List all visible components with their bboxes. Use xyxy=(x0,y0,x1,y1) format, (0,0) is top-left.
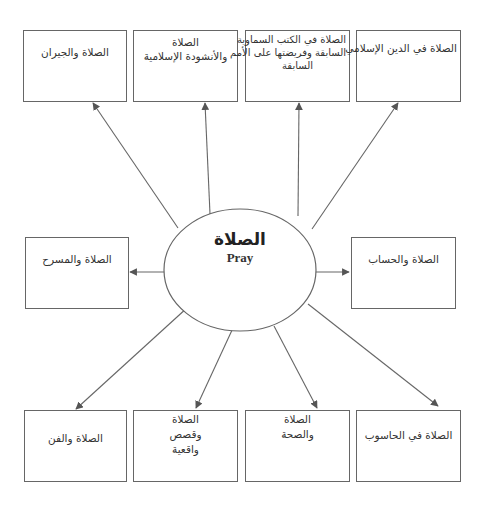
center-node: الصلاة Pray xyxy=(164,209,316,331)
box-label: وقصص xyxy=(137,427,234,442)
box-prayer-and-neighbors: الصلاة والجيران xyxy=(23,30,127,102)
arrow-to-top-4 xyxy=(312,103,398,229)
box-label: والصحة xyxy=(249,427,346,442)
box-prayer-and-arithmetic: الصلاة والحساب xyxy=(351,237,456,309)
box-label: الصلاة في الحاسوب xyxy=(360,428,457,442)
center-title-arabic: الصلاة xyxy=(164,229,316,249)
box-label: السابقة وفريضتها على الأمم xyxy=(249,46,346,59)
box-label: السابقة xyxy=(249,59,346,72)
box-label: الصلاة في الدين الإسلامي xyxy=(360,41,457,55)
box-prayer-in-previous-scriptures: الصلاة في الكتب السماوية السابقة وفريضته… xyxy=(245,30,350,102)
box-prayer-and-islamic-anthem: الصلاة والأنشودة الإسلامية xyxy=(133,30,238,102)
box-prayer-in-islam: الصلاة في الدين الإسلامي xyxy=(356,30,461,102)
box-prayer-in-computer: الصلاة في الحاسوب xyxy=(356,410,461,482)
box-label: واقعية xyxy=(137,442,234,457)
box-label: الصلاة xyxy=(137,412,234,427)
box-prayer-and-health: الصلاة والصحة xyxy=(245,410,350,482)
box-label: الصلاة xyxy=(249,412,346,427)
box-label: والأنشودة الإسلامية xyxy=(137,49,234,63)
box-prayer-and-real-stories: الصلاة وقصص واقعية xyxy=(133,410,238,482)
box-prayer-and-theater: الصلاة والمسرح xyxy=(25,237,129,309)
box-prayer-and-art: الصلاة والفن xyxy=(24,410,127,482)
box-label: الصلاة والجيران xyxy=(27,45,123,59)
box-label: الصلاة والحساب xyxy=(355,252,452,266)
arrow-to-top-3 xyxy=(298,103,299,216)
arrow-to-bottom-4 xyxy=(308,304,438,406)
box-label: الصلاة والفن xyxy=(28,431,123,445)
box-label: الصلاة xyxy=(137,35,234,49)
arrow-to-bottom-2 xyxy=(196,328,233,408)
box-label: الصلاة والمسرح xyxy=(29,252,125,266)
center-title-english: Pray xyxy=(164,250,316,266)
arrow-to-top-2 xyxy=(205,103,210,214)
box-label: الصلاة في الكتب السماوية xyxy=(249,33,346,46)
arrow-to-bottom-3 xyxy=(274,326,317,408)
